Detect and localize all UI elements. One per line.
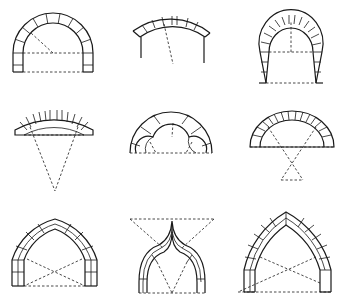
arch-trefoil: [130, 112, 212, 153]
arch-horseshoe: [259, 10, 323, 83]
arch-lancet-pointed: [238, 212, 331, 292]
arch-segmental: [133, 16, 210, 64]
arch-types-diagram: [0, 0, 340, 296]
arch-segmental-crossed: [250, 111, 334, 180]
arch-equilateral-pointed: [12, 219, 97, 286]
arch-ogee: [130, 219, 214, 293]
arch-flat-segmental: [15, 110, 93, 191]
arch-round: [13, 13, 93, 72]
